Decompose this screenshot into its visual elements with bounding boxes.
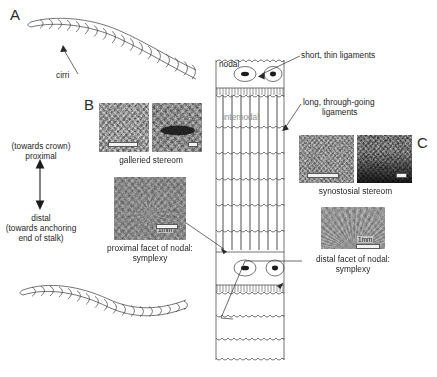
scale-label-distal-facet: 1mm <box>357 236 373 243</box>
orientation-proximal-line1: (towards crown) <box>0 141 82 151</box>
figure-canvas: A B C <box>0 0 437 377</box>
scalebar-synostosial-left <box>307 173 339 178</box>
cirrus-upper <box>28 18 196 79</box>
scalebar-proximal-facet <box>156 224 178 229</box>
short-ligament-leader <box>262 56 300 74</box>
scalebar-galleried-right <box>188 142 198 147</box>
cirri-arrowhead <box>60 45 67 52</box>
micrograph-galleried-right <box>152 103 202 152</box>
photo-distal-facet <box>321 207 385 249</box>
cirrus-lower <box>20 285 187 316</box>
label-proximal-facet-line1: proximal facet of nodal: <box>96 243 204 253</box>
label-galleried-stereom: galleried stereom <box>94 155 208 165</box>
distal-facet-arrowhead <box>277 282 284 289</box>
label-internodal: internodal <box>223 113 259 123</box>
label-distal-facet-line2: symplexy <box>297 264 409 274</box>
orientation-proximal-line2: proximal <box>0 151 82 161</box>
label-synostosial-stereom: synostosial stereom <box>294 186 417 196</box>
orientation-distal-line2: (towards anchoring <box>0 223 82 233</box>
orientation-distal-line1: distal <box>0 213 82 223</box>
orientation-arrow-head-down <box>36 201 45 211</box>
distal-facet-leader <box>221 261 302 319</box>
micrograph-synostosial-right <box>357 135 412 183</box>
short-ligament-arrowhead <box>258 72 265 79</box>
label-long-through-going-ligaments-line2: ligaments <box>322 107 358 117</box>
long-ligament-leader <box>285 104 301 128</box>
label-long-through-going-ligaments-line1: long, through-going <box>303 97 375 107</box>
label-distal-facet-line1: distal facet of nodal: <box>297 254 409 264</box>
scalebar-galleried-left <box>108 142 138 147</box>
label-proximal-facet-line2: symplexy <box>96 253 204 263</box>
scalebar-distal-facet <box>356 244 380 249</box>
label-short-thin-ligaments: short, thin ligaments <box>301 50 375 60</box>
photo-proximal-facet <box>114 177 186 240</box>
micrograph-galleried-left <box>99 103 149 152</box>
label-cirri: cirri <box>56 70 69 80</box>
label-nodal: nodal <box>219 59 239 69</box>
orientation-distal-line3: end of stalk) <box>0 233 82 243</box>
micrograph-synostosial-left <box>299 135 354 183</box>
scalebar-synostosial-right <box>396 173 407 178</box>
